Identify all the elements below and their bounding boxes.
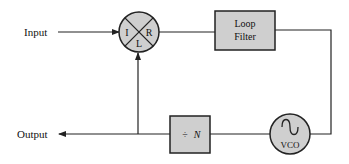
- output-label: Output: [17, 128, 48, 140]
- mixer-port-r: R: [146, 27, 153, 38]
- loop-filter-label-line1: Loop: [234, 18, 255, 29]
- divider-symbol: ÷: [182, 129, 188, 140]
- divider-block: ÷ N: [170, 116, 210, 153]
- mixer-port-i: I: [125, 27, 128, 38]
- input-label: Input: [24, 26, 47, 38]
- divider-variable: N: [193, 129, 202, 140]
- vco-label: VCO: [280, 140, 300, 150]
- vco-block: VCO: [270, 114, 310, 154]
- mixer-port-l: L: [136, 38, 142, 49]
- mixer: I R L: [119, 12, 159, 52]
- divider-box: [170, 116, 210, 153]
- loop-filter-block: Loop Filter: [215, 11, 275, 50]
- pll-diagram: Input I R L Loop Filter VCO ÷ N Output: [0, 0, 349, 164]
- loop-filter-label-line2: Filter: [234, 31, 256, 42]
